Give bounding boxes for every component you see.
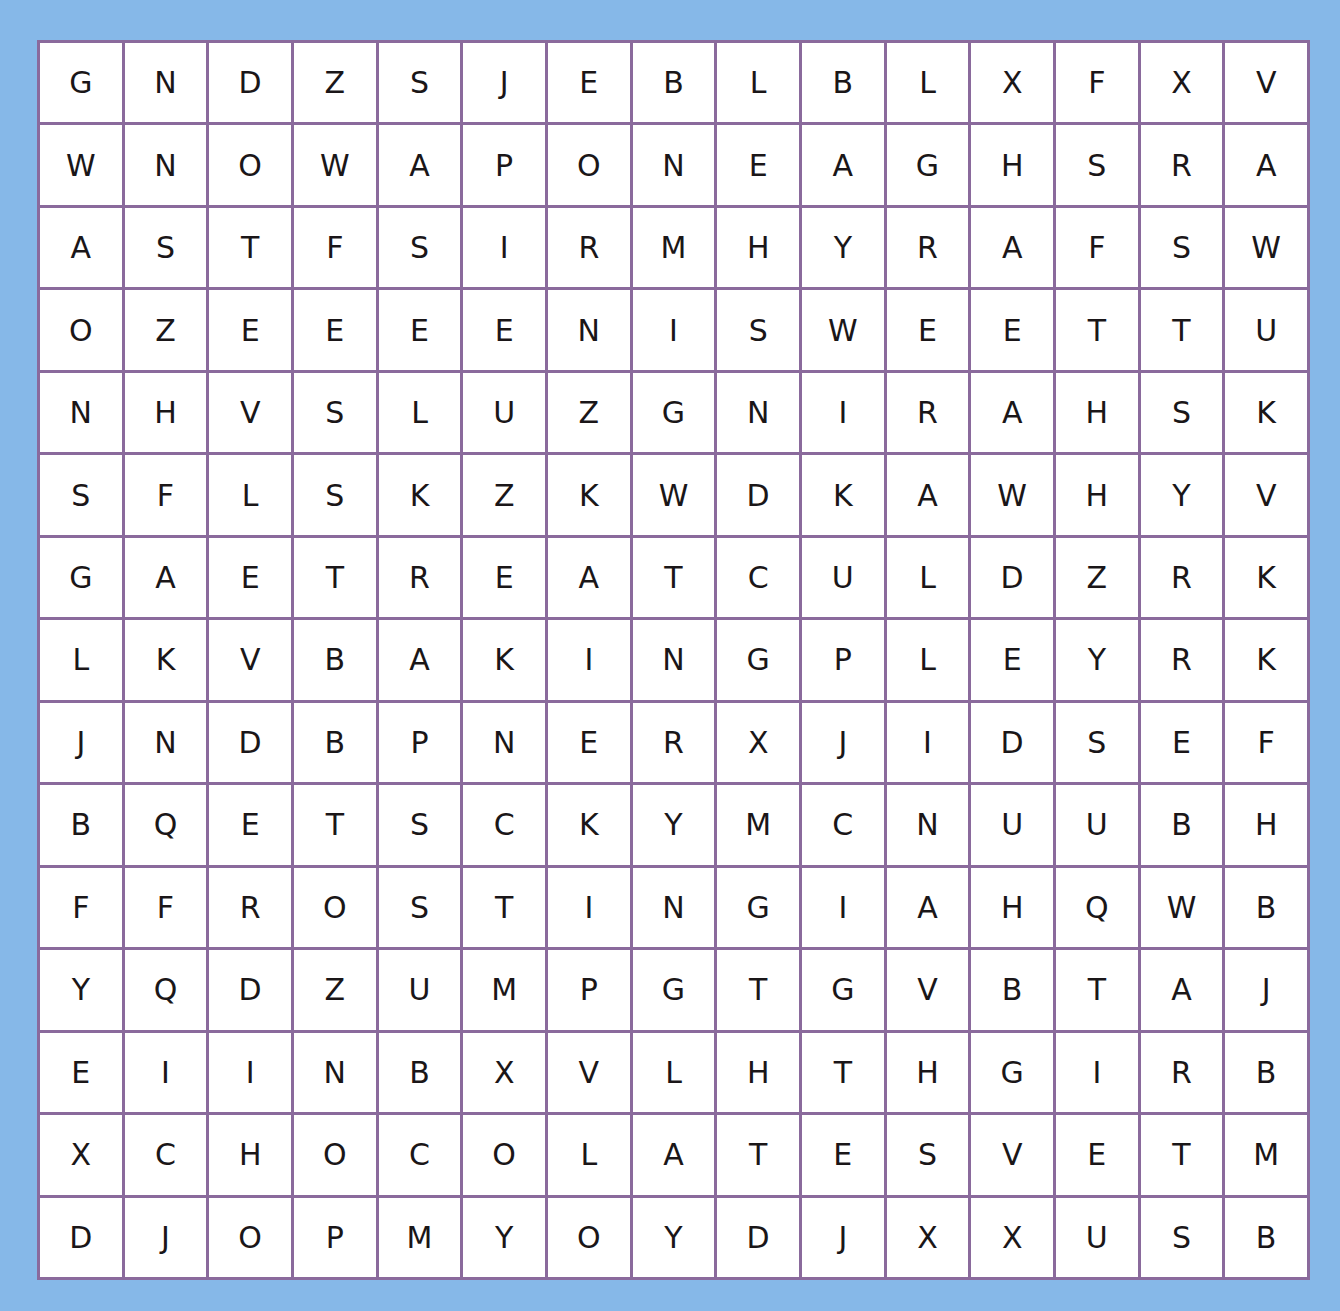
letter-cell[interactable]: T <box>209 208 291 287</box>
letter-cell[interactable]: F <box>1056 208 1138 287</box>
letter-cell[interactable]: T <box>717 1115 799 1194</box>
letter-cell[interactable]: D <box>971 703 1053 782</box>
letter-cell[interactable]: Z <box>463 455 545 534</box>
letter-cell[interactable]: B <box>40 785 122 864</box>
letter-cell[interactable]: G <box>40 538 122 617</box>
letter-cell[interactable]: Y <box>633 1198 715 1277</box>
letter-cell[interactable]: H <box>1056 455 1138 534</box>
letter-cell[interactable]: P <box>463 125 545 204</box>
letter-cell[interactable]: E <box>548 703 630 782</box>
letter-cell[interactable]: V <box>971 1115 1053 1194</box>
letter-cell[interactable]: H <box>209 1115 291 1194</box>
letter-cell[interactable]: S <box>294 373 376 452</box>
letter-cell[interactable]: I <box>548 868 630 947</box>
letter-cell[interactable]: I <box>125 1033 207 1112</box>
letter-cell[interactable]: T <box>717 950 799 1029</box>
letter-cell[interactable]: N <box>463 703 545 782</box>
letter-cell[interactable]: Z <box>294 43 376 122</box>
letter-cell[interactable]: S <box>1141 1198 1223 1277</box>
letter-cell[interactable]: D <box>209 703 291 782</box>
letter-cell[interactable]: J <box>802 703 884 782</box>
letter-cell[interactable]: E <box>209 785 291 864</box>
letter-cell[interactable]: B <box>1225 1198 1307 1277</box>
letter-cell[interactable]: L <box>717 43 799 122</box>
letter-cell[interactable]: B <box>633 43 715 122</box>
letter-cell[interactable]: L <box>40 620 122 699</box>
letter-cell[interactable]: E <box>802 1115 884 1194</box>
letter-cell[interactable]: R <box>379 538 461 617</box>
letter-cell[interactable]: E <box>209 290 291 369</box>
letter-cell[interactable]: V <box>887 950 969 1029</box>
letter-cell[interactable]: Z <box>294 950 376 1029</box>
letter-cell[interactable]: B <box>294 703 376 782</box>
letter-cell[interactable]: K <box>1225 373 1307 452</box>
letter-cell[interactable]: F <box>294 208 376 287</box>
letter-cell[interactable]: C <box>125 1115 207 1194</box>
letter-cell[interactable]: H <box>125 373 207 452</box>
letter-cell[interactable]: V <box>1225 455 1307 534</box>
letter-cell[interactable]: M <box>379 1198 461 1277</box>
letter-cell[interactable]: G <box>633 373 715 452</box>
letter-cell[interactable]: A <box>633 1115 715 1194</box>
letter-cell[interactable]: V <box>548 1033 630 1112</box>
letter-cell[interactable]: J <box>1225 950 1307 1029</box>
letter-cell[interactable]: X <box>971 43 1053 122</box>
letter-cell[interactable]: D <box>209 950 291 1029</box>
letter-cell[interactable]: X <box>463 1033 545 1112</box>
letter-cell[interactable]: S <box>1141 373 1223 452</box>
letter-cell[interactable]: V <box>209 373 291 452</box>
letter-cell[interactable]: S <box>717 290 799 369</box>
letter-cell[interactable]: T <box>294 538 376 617</box>
letter-cell[interactable]: E <box>40 1033 122 1112</box>
letter-cell[interactable]: K <box>379 455 461 534</box>
letter-cell[interactable]: N <box>294 1033 376 1112</box>
letter-cell[interactable]: I <box>802 868 884 947</box>
letter-cell[interactable]: X <box>717 703 799 782</box>
letter-cell[interactable]: K <box>548 785 630 864</box>
letter-cell[interactable]: R <box>209 868 291 947</box>
letter-cell[interactable]: B <box>1141 785 1223 864</box>
letter-cell[interactable]: Z <box>125 290 207 369</box>
letter-cell[interactable]: A <box>379 125 461 204</box>
letter-cell[interactable]: W <box>971 455 1053 534</box>
letter-cell[interactable]: R <box>1141 125 1223 204</box>
letter-cell[interactable]: A <box>971 208 1053 287</box>
letter-cell[interactable]: J <box>463 43 545 122</box>
letter-cell[interactable]: S <box>379 208 461 287</box>
letter-cell[interactable]: A <box>971 373 1053 452</box>
letter-cell[interactable]: T <box>1056 950 1138 1029</box>
letter-cell[interactable]: A <box>548 538 630 617</box>
letter-cell[interactable]: X <box>40 1115 122 1194</box>
letter-cell[interactable]: S <box>379 785 461 864</box>
letter-cell[interactable]: R <box>548 208 630 287</box>
letter-cell[interactable]: H <box>1225 785 1307 864</box>
letter-cell[interactable]: F <box>1056 43 1138 122</box>
letter-cell[interactable]: X <box>887 1198 969 1277</box>
letter-cell[interactable]: T <box>1056 290 1138 369</box>
letter-cell[interactable]: E <box>717 125 799 204</box>
letter-cell[interactable]: M <box>717 785 799 864</box>
letter-cell[interactable]: I <box>209 1033 291 1112</box>
letter-cell[interactable]: I <box>463 208 545 287</box>
letter-cell[interactable]: S <box>1141 208 1223 287</box>
letter-cell[interactable]: E <box>209 538 291 617</box>
letter-cell[interactable]: Q <box>1056 868 1138 947</box>
letter-cell[interactable]: V <box>209 620 291 699</box>
letter-cell[interactable]: U <box>463 373 545 452</box>
letter-cell[interactable]: P <box>379 703 461 782</box>
letter-cell[interactable]: P <box>294 1198 376 1277</box>
letter-cell[interactable]: Y <box>1056 620 1138 699</box>
letter-cell[interactable]: N <box>125 125 207 204</box>
letter-cell[interactable]: W <box>633 455 715 534</box>
letter-cell[interactable]: O <box>548 1198 630 1277</box>
letter-cell[interactable]: J <box>125 1198 207 1277</box>
letter-cell[interactable]: A <box>40 208 122 287</box>
letter-cell[interactable]: A <box>1141 950 1223 1029</box>
letter-cell[interactable]: T <box>802 1033 884 1112</box>
letter-cell[interactable]: D <box>971 538 1053 617</box>
letter-cell[interactable]: N <box>125 43 207 122</box>
letter-cell[interactable]: E <box>971 620 1053 699</box>
letter-cell[interactable]: M <box>1225 1115 1307 1194</box>
letter-cell[interactable]: S <box>125 208 207 287</box>
letter-cell[interactable]: I <box>887 703 969 782</box>
